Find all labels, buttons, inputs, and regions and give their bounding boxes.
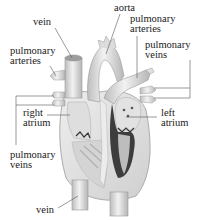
pulmonary-artery-left: [50, 70, 65, 80]
left-atrium-chamber: [115, 97, 141, 130]
label-pulmonary-veins-left: pulmonary veins: [10, 150, 56, 170]
label-aorta: aorta: [114, 3, 135, 13]
inferior-vena-cava: [72, 180, 88, 210]
label-right-atrium: right atrium: [23, 108, 50, 128]
label-vein-top: vein: [33, 17, 51, 27]
label-pulmonary-veins-right: pulmonary veins: [145, 40, 191, 60]
pulmonary-veins-right-stubs: [140, 86, 156, 103]
label-left-atrium: left atrium: [161, 108, 188, 128]
label-pulmonary-arteries-left: pulmonary arteries: [10, 46, 56, 66]
heart-diagram: vein aorta pulmonary arteries pulmonary …: [0, 0, 202, 221]
descending-aorta: [110, 192, 128, 216]
label-pulmonary-arteries-right: pulmonary arteries: [130, 14, 176, 34]
leader-vein-top: [55, 28, 72, 58]
label-vein-bottom: vein: [36, 205, 54, 215]
superior-vena-cava: [65, 58, 82, 98]
